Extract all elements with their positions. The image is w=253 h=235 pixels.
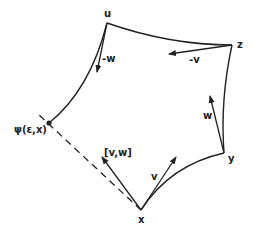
label-z: z [237, 39, 243, 50]
label-w: w [203, 110, 212, 121]
label-neg-w: -w [102, 53, 115, 64]
edge-z-y [223, 45, 232, 153]
dashed-edge-x-psi [38, 114, 141, 210]
vector-neg-w [97, 23, 107, 72]
label-neg-v: -v [189, 54, 200, 65]
label-bracket-vw: [v,w] [104, 147, 132, 158]
label-psi: ψ(ε,x) [14, 124, 47, 135]
label-x: x [138, 214, 145, 225]
vector-v [141, 157, 176, 210]
psi-point [46, 120, 51, 125]
vector-w [210, 96, 224, 153]
label-y: y [228, 153, 235, 164]
label-v: v [151, 171, 158, 182]
label-u: u [104, 8, 111, 19]
diagram-canvas: u z y x ψ(ε,x) -w -v w v [v,w] [0, 0, 253, 235]
vector-bracket-vw [102, 157, 141, 210]
vector-neg-v [169, 45, 232, 54]
edge-u-z [107, 23, 232, 45]
edge-u-psi [49, 23, 107, 123]
